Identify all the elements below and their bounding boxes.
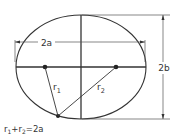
- r1-label: r1: [53, 82, 61, 95]
- equation-label: r1+r2=2a: [4, 124, 44, 135]
- r2-line: [58, 67, 116, 116]
- 2a-arrow-left: [15, 41, 20, 44]
- ellipse-diagram: 2a 2b r1 r2 r1+r2=2a: [0, 0, 179, 140]
- 2a-arrow-right: [140, 41, 145, 44]
- 2a-label: 2a: [41, 38, 52, 48]
- 2b-label: 2b: [158, 63, 170, 73]
- 2b-arrow-bottom: [162, 114, 165, 119]
- 2b-arrow-top: [162, 15, 165, 20]
- r2-label: r2: [97, 82, 105, 95]
